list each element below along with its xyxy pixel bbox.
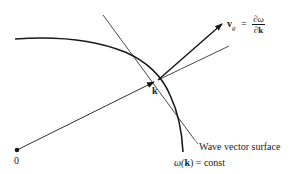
omega-const-text: ) = const <box>190 157 225 168</box>
radius-extension-line <box>158 46 229 80</box>
k-point-label: k <box>152 86 158 96</box>
vg-subscript: g <box>232 24 236 32</box>
wave-vector-surface-label: Wave vector surface <box>199 142 280 152</box>
omega-symbol: ω( <box>174 157 184 168</box>
omega-const-label: ω(k) = const <box>174 158 225 168</box>
vg-numerator: ∂ω <box>252 14 265 25</box>
surface-label-leader <box>194 139 198 144</box>
tangent-line <box>103 15 194 139</box>
origin-label: 0 <box>14 156 19 166</box>
wave-vector-k-arrow <box>17 82 154 150</box>
group-velocity-label: vg = ∂ω ∂k <box>227 14 265 35</box>
group-velocity-arrow <box>158 24 222 80</box>
vg-equals: = <box>241 18 247 29</box>
vg-fraction: ∂ω ∂k <box>252 14 265 35</box>
vg-denominator: ∂k <box>254 25 263 35</box>
origin-point <box>15 148 20 153</box>
